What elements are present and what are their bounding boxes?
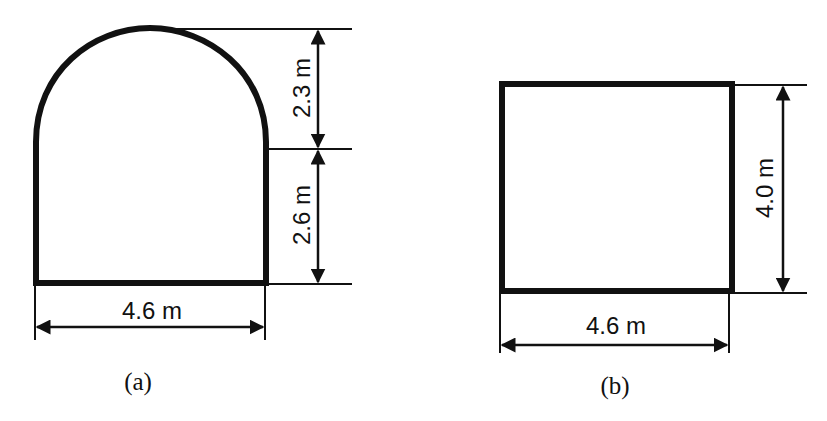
figure-a: 2.3 m 2.6 m 4.6 m (a)	[35, 28, 352, 396]
figure-caption-b: (b)	[600, 372, 629, 400]
arch-height-label: 2.3 m	[288, 58, 315, 118]
diagram-canvas: 2.3 m 2.6 m 4.6 m (a) 4.0 m 4.6 m (b)	[0, 0, 827, 421]
width-label: 4.6 m	[586, 312, 646, 339]
wall-height-label: 2.6 m	[288, 185, 315, 245]
figure-caption-a: (a)	[124, 368, 152, 396]
tunnel-outline-rectangle	[502, 84, 732, 291]
height-label: 4.0 m	[751, 158, 778, 218]
tunnel-outline-horseshoe	[36, 28, 266, 283]
figure-b: 4.0 m 4.6 m (b)	[500, 84, 807, 400]
width-label: 4.6 m	[122, 297, 182, 324]
